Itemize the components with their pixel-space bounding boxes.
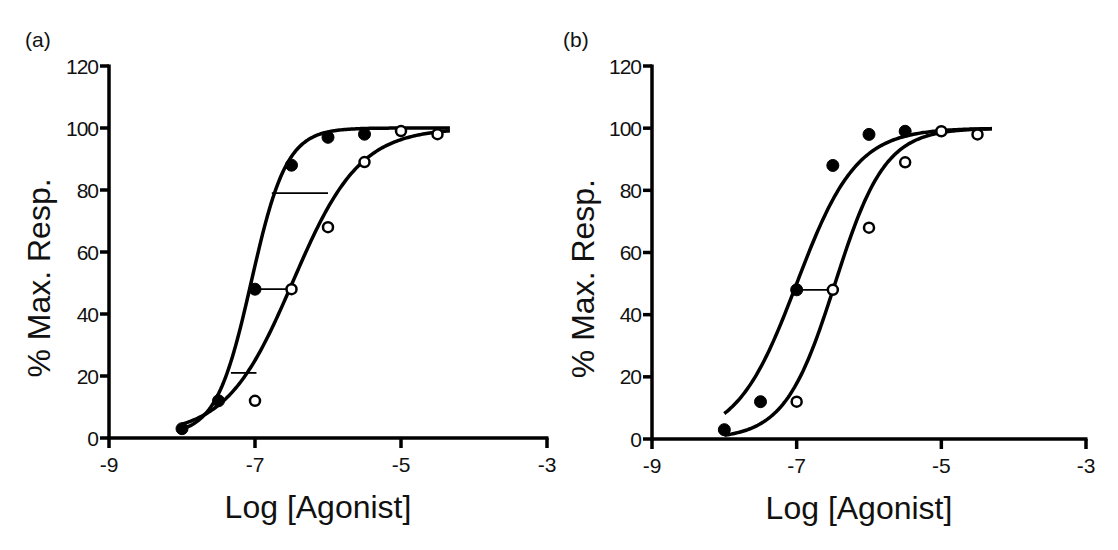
open-data-point xyxy=(323,222,333,232)
filled-data-point xyxy=(322,131,334,143)
panel-label: (b) xyxy=(563,28,589,51)
y-tick-label: 120 xyxy=(609,55,641,78)
open-data-point xyxy=(360,157,370,167)
open-data-point xyxy=(864,223,874,233)
panel-b: (b)020406080100120-9-7-5-3Log [Agonist]%… xyxy=(559,0,1118,550)
filled-data-point xyxy=(718,424,730,436)
filled-data-point xyxy=(827,159,839,171)
chart-b-svg: (b)020406080100120-9-7-5-3Log [Agonist]%… xyxy=(559,0,1118,550)
y-axis-title: % Max. Resp. xyxy=(21,178,57,377)
open-data-point xyxy=(792,397,802,407)
panel-label: (a) xyxy=(25,28,51,51)
open-data-point xyxy=(936,126,946,136)
x-tick-label: -5 xyxy=(932,454,951,477)
open-data-point xyxy=(396,126,406,136)
open-data-point xyxy=(828,285,838,295)
y-tick-label: 20 xyxy=(620,365,642,388)
filled-data-point xyxy=(755,396,767,408)
y-tick-label: 0 xyxy=(630,428,641,451)
y-tick-label: 20 xyxy=(77,365,99,388)
filled-data-point xyxy=(176,423,188,435)
x-tick-label: -3 xyxy=(1077,454,1096,477)
x-tick-label: -9 xyxy=(643,454,662,477)
axes: 020406080100120-9-7-5-3 xyxy=(66,55,556,477)
filled-data-point xyxy=(249,283,261,295)
chart-a-svg: (a)020406080100120-9-7-5-3Log [Agonist]%… xyxy=(0,0,559,550)
open-data-point xyxy=(973,129,983,139)
fit-curve xyxy=(182,131,450,424)
x-tick-label: -9 xyxy=(100,453,119,476)
y-tick-label: 100 xyxy=(609,117,641,140)
panel-a: (a)020406080100120-9-7-5-3Log [Agonist]%… xyxy=(0,0,559,550)
axes: 020406080100120-9-7-5-3 xyxy=(609,55,1095,478)
x-axis-title: Log [Agonist] xyxy=(766,490,953,526)
y-tick-label: 80 xyxy=(77,179,99,202)
y-tick-label: 100 xyxy=(66,117,98,140)
y-tick-label: 120 xyxy=(66,55,98,78)
y-tick-label: 60 xyxy=(620,241,642,264)
y-axis-title: % Max. Resp. xyxy=(565,179,601,378)
open-data-point xyxy=(900,157,910,167)
open-data-point xyxy=(287,284,297,294)
x-tick-label: -5 xyxy=(392,453,411,476)
filled-data-point xyxy=(863,128,875,140)
fit-curve xyxy=(724,129,992,414)
x-tick-label: -3 xyxy=(538,453,557,476)
y-tick-label: 0 xyxy=(87,427,98,450)
y-tick-label: 40 xyxy=(77,303,99,326)
y-tick-label: 80 xyxy=(620,179,642,202)
fit-curve xyxy=(182,128,450,429)
filled-data-point xyxy=(359,128,371,140)
open-data-point xyxy=(433,129,443,139)
filled-data-point xyxy=(213,395,225,407)
fit-curve xyxy=(724,129,992,435)
y-tick-label: 40 xyxy=(620,303,642,326)
filled-data-point xyxy=(791,284,803,296)
filled-data-point xyxy=(899,125,911,137)
x-axis-title: Log [Agonist] xyxy=(225,489,412,525)
x-tick-label: -7 xyxy=(246,453,265,476)
open-data-point xyxy=(250,396,260,406)
y-tick-label: 60 xyxy=(77,241,99,264)
x-tick-label: -7 xyxy=(787,454,806,477)
filled-data-point xyxy=(286,159,298,171)
